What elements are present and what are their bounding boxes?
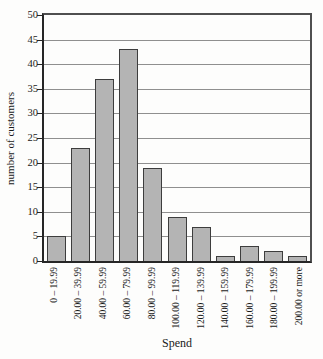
y-tick-label-35: 35 [8,83,38,95]
bar-9 [264,251,283,261]
x-tick-label-9: 180.00 – 199.99 [270,267,280,329]
bar-slot-2 [92,15,116,261]
bar-1 [71,148,90,261]
x-tick-label-7: 140.00 – 159.99 [221,267,231,329]
bar-slot-0 [44,15,68,261]
x-tick-label-6: 120.00 – 139.99 [197,267,207,329]
bar-2 [95,79,114,261]
x-tick-label-1: 20.00 – 39.99 [74,267,84,319]
bar-slot-9 [262,15,286,261]
bar-7 [216,256,235,261]
bar-slot-8 [238,15,262,261]
bar-4 [143,168,162,261]
x-tick-label-2: 40.00 – 59.99 [99,267,109,319]
y-tick-label-10: 10 [8,206,38,218]
y-tick-label-20: 20 [8,157,38,169]
x-label-slot-3: 60.00 – 79.99 [116,267,141,339]
bar-6 [192,227,211,261]
y-tick-label-0: 0 [8,255,38,267]
x-tick-label-8: 160.00 – 179.99 [246,267,256,329]
x-label-slot-7: 140.00 – 159.99 [214,267,239,339]
y-tick-label-50: 50 [8,9,38,21]
bar-8 [240,246,259,261]
bar-slot-6 [189,15,213,261]
x-label-slot-8: 160.00 – 179.99 [238,267,263,339]
plot-area [42,13,312,263]
x-tick-label-10: 200.00 or more [295,267,305,325]
x-tick-label-4: 80.00 – 99.99 [148,267,158,319]
x-label-slot-0: 0 – 19.99 [42,267,67,339]
bar-3 [119,49,138,261]
x-tick-label-3: 60.00 – 79.99 [123,267,133,319]
bar-0 [47,236,66,261]
bar-10 [288,256,307,261]
bar-chart-figure: number of customers 05101520253035404550… [0,0,323,359]
bar-5 [168,217,187,261]
x-label-slot-9: 180.00 – 199.99 [263,267,288,339]
bar-slot-7 [213,15,237,261]
x-label-slot-5: 100.00 – 119.99 [165,267,190,339]
x-axis-tick-labels: 0 – 19.9920.00 – 39.9940.00 – 59.9960.00… [42,267,312,339]
x-label-slot-1: 20.00 – 39.99 [67,267,92,339]
bars-row [44,15,310,261]
x-label-slot-10: 200.00 or more [287,267,312,339]
x-label-slot-6: 120.00 – 139.99 [189,267,214,339]
x-label-slot-2: 40.00 – 59.99 [91,267,116,339]
y-tick-label-30: 30 [8,107,38,119]
bar-slot-1 [68,15,92,261]
y-tick-label-15: 15 [8,181,38,193]
x-label-slot-4: 80.00 – 99.99 [140,267,165,339]
bar-slot-10 [286,15,310,261]
x-tick-label-5: 100.00 – 119.99 [172,267,182,328]
bar-slot-3 [117,15,141,261]
y-tick-label-25: 25 [8,132,38,144]
y-tick-label-45: 45 [8,34,38,46]
x-tick-label-0: 0 – 19.99 [50,267,60,303]
y-tick-label-5: 5 [8,230,38,242]
bar-slot-4 [141,15,165,261]
y-tick-label-40: 40 [8,58,38,70]
x-axis-title: Spend [42,336,312,351]
bar-slot-5 [165,15,189,261]
